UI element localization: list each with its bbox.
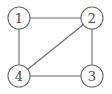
node-1-label: 1: [15, 11, 23, 26]
graph-node-2[interactable]: 2: [81, 7, 103, 29]
graph-diagram: 1 2 3 4: [0, 0, 112, 94]
graph-canvas: 1 2 3 4: [0, 0, 112, 94]
node-3-label: 3: [88, 69, 96, 84]
graph-node-1[interactable]: 1: [8, 7, 30, 29]
node-2-label: 2: [88, 11, 96, 26]
graph-edges: [19, 18, 92, 76]
edge-4-2-diagonal: [28, 25, 83, 70]
graph-node-4[interactable]: 4: [8, 65, 30, 87]
node-4-label: 4: [15, 69, 23, 84]
graph-node-3[interactable]: 3: [81, 65, 103, 87]
